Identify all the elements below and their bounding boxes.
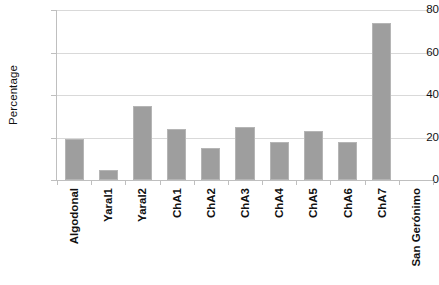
x-axis-label-slot: ChA3 [228,186,262,285]
y-axis-tick-mark [51,138,56,139]
y-axis-tick-mark [51,10,56,11]
y-axis-tick-mark [51,53,56,54]
x-axis-tick-label: Algodonal [68,188,80,244]
bar [65,139,84,180]
bar-series [57,10,433,180]
x-axis-tick-mark [160,181,161,185]
x-axis-tick-label: ChA2 [205,188,217,218]
bar-slot [296,10,330,180]
bar [372,23,391,180]
x-axis-label-slot: ChA4 [262,186,296,285]
x-axis-labels: AlgodonalYaral1Yaral2ChA1ChA2ChA3ChA4ChA… [57,186,433,285]
x-axis-tick-mark [125,181,126,185]
bar [167,129,186,180]
x-axis-tick-mark [228,181,229,185]
bar-slot [91,10,125,180]
bar-slot [160,10,194,180]
bar-slot [331,10,365,180]
bar-slot [228,10,262,180]
bar [201,148,220,180]
x-axis-tick-mark [365,181,366,185]
x-axis-tick-mark [433,181,434,185]
bar-slot [194,10,228,180]
bar [235,127,254,180]
x-axis-tick-label: ChA4 [273,188,285,218]
x-axis-label-slot: ChA7 [365,186,399,285]
x-axis-tick-mark [262,181,263,185]
x-axis-label-slot: San Gerónimo [399,186,433,285]
x-axis-label-slot: ChA5 [296,186,330,285]
x-axis-label-slot: ChA2 [194,186,228,285]
y-axis-tick-mark [51,95,56,96]
x-axis-tick-label: ChA1 [171,188,183,218]
bar-chart: Percentage 020406080 AlgodonalYaral1Yara… [0,0,439,285]
bar [133,106,152,180]
x-axis-label-slot: ChA1 [160,186,194,285]
x-axis-tick-label: San Gerónimo [410,188,422,267]
x-axis-tick-label: Yaral1 [102,188,114,222]
x-axis-tick-label: Yaral2 [136,188,148,222]
bar-slot [262,10,296,180]
bar [270,142,289,180]
y-axis-tick-mark [51,180,56,181]
x-axis-tick-mark [194,181,195,185]
x-axis-tick-label: ChA6 [342,188,354,218]
y-axis-title-text: Percentage [7,65,19,125]
x-axis-tick-label: ChA3 [239,188,251,218]
bar-slot [365,10,399,180]
x-axis-tick-mark [399,181,400,185]
bar-slot [125,10,159,180]
x-axis-label-slot: ChA6 [331,186,365,285]
bar-slot [399,10,433,180]
y-axis-title: Percentage [0,0,26,190]
x-axis-tick-label: ChA5 [307,188,319,218]
bar [99,170,118,180]
x-axis-tick-mark [91,181,92,185]
x-axis-label-slot: Yaral1 [91,186,125,285]
x-axis-label-slot: Algodonal [57,186,91,285]
bar-slot [57,10,91,180]
x-axis-label-slot: Yaral2 [125,186,159,285]
x-axis-tick-label: ChA7 [376,188,388,218]
bar [338,142,357,180]
x-axis-tick-mark [296,181,297,185]
x-axis-tick-mark [57,181,58,185]
bar [304,131,323,180]
x-axis-tick-mark [330,181,331,185]
